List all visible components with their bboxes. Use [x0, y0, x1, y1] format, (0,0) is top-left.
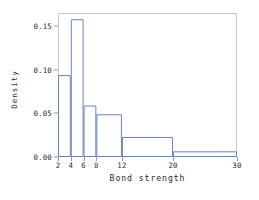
x-tick-mark	[96, 157, 97, 161]
x-tick-label: 30	[232, 161, 241, 170]
histogram-figure: 0.000.050.100.15 2468122030 Density Bond…	[0, 0, 259, 200]
x-axis: 2468122030	[0, 0, 259, 200]
x-tick-mark	[237, 157, 238, 161]
x-tick-mark	[71, 157, 72, 161]
x-axis-label: Bond strength	[58, 173, 237, 183]
x-tick-label: 20	[168, 161, 177, 170]
x-tick-mark	[173, 157, 174, 161]
x-tick-label: 12	[117, 161, 126, 170]
x-tick-mark	[122, 157, 123, 161]
x-tick-label: 4	[68, 161, 73, 170]
x-tick-mark	[58, 157, 59, 161]
y-axis-label: Density	[10, 60, 19, 120]
x-tick-label: 6	[81, 161, 86, 170]
x-tick-mark	[84, 157, 85, 161]
x-tick-label: 2	[56, 161, 61, 170]
x-tick-label: 8	[94, 161, 99, 170]
